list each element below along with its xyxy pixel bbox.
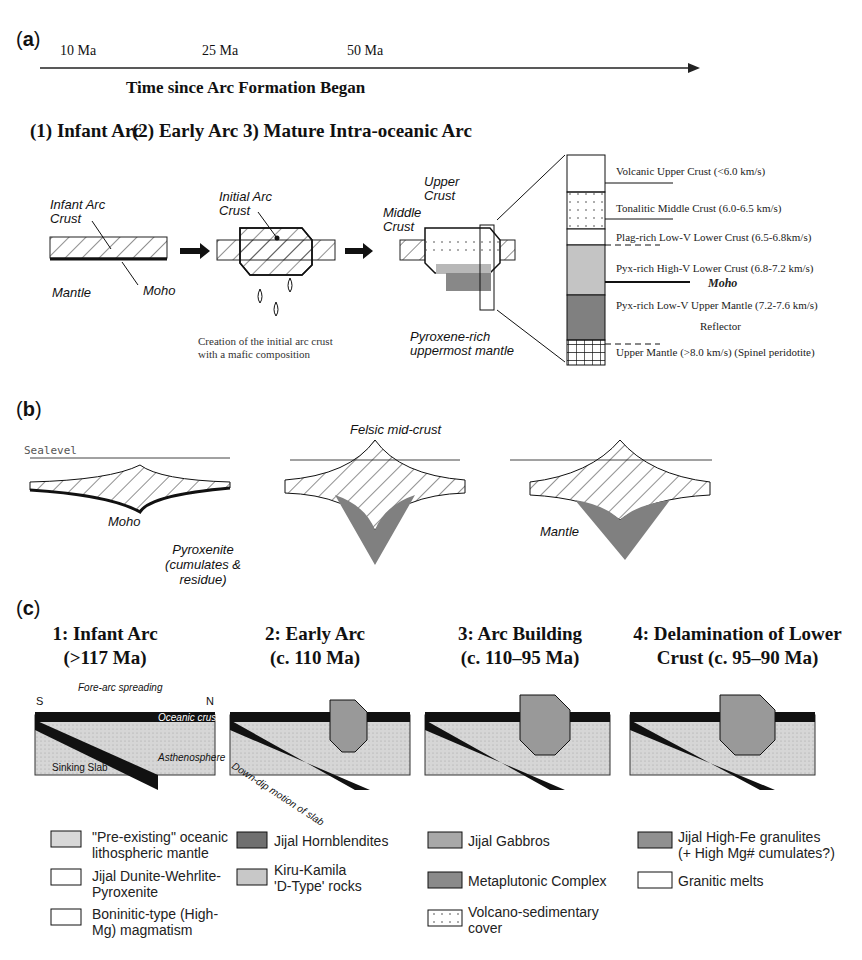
legend-7-l2: cover (468, 920, 599, 936)
legend-0-l2: lithospheric mantle (92, 845, 228, 861)
c-stage-4-title: 4: Delamination of Lower Crust (c. 95–90… (615, 622, 860, 670)
legend-8-l1: Jijal High-Fe granulites (678, 829, 835, 845)
legend-boninitic: Boninitic-type (High-Mg) magmatism (92, 906, 218, 938)
c-stage-2-line1: 2: Early Arc (220, 622, 410, 646)
tick-50ma: 50 Ma (347, 43, 383, 59)
mantle-label-b: Mantle (540, 524, 579, 539)
upper-crust-label: Upper Crust (424, 175, 474, 203)
pyroxene-line-1: Pyroxene-rich (410, 330, 514, 344)
c-stage-1-line2: (>117 Ma) (10, 646, 200, 670)
stage-1-title: (1) Infant Arc (30, 120, 142, 142)
legend-kiru-kamila: Kiru-Kamila'D-Type' rocks (274, 862, 362, 894)
pyroxene-rich-label: Pyroxene-rich uppermost mantle (410, 330, 514, 358)
legend-volcano-sedimentary: Volcano-sedimentarycover (468, 904, 599, 936)
legend-7-l1: Volcano-sedimentary (468, 904, 599, 920)
sinking-slab-label: Sinking Slab (52, 762, 108, 773)
panel-b-label: (b) (16, 398, 42, 421)
felsic-mid-crust-label: Felsic mid-crust (350, 422, 441, 437)
timeline-arrow (40, 63, 700, 73)
column-label-moho: Moho (708, 276, 737, 291)
c-stage-4-line2: Crust (c. 95–90 Ma) (615, 646, 860, 670)
c-stage-1-title: 1: Infant Arc (>117 Ma) (10, 622, 200, 670)
legend-hornblendites: Jijal Hornblendites (274, 833, 388, 849)
early-arc-section (217, 212, 335, 316)
legend-4-l2: 'D-Type' rocks (274, 878, 362, 894)
fore-arc-label: Fore-arc spreading (78, 682, 162, 693)
column-label-5: Pyx-rich Low-V Upper Mantle (7.2-7.6 km/… (616, 299, 818, 311)
diagram-graphics (0, 0, 862, 960)
c-stage-3-title: 3: Arc Building (c. 110–95 Ma) (425, 622, 615, 670)
pyroxenite-line-2: (cumulates & residue) (148, 557, 258, 587)
sealevel-label: Sealevel (24, 444, 77, 457)
moho-label-a: Moho (143, 283, 176, 298)
caption-line-1: Creation of the initial arc crust (198, 335, 333, 348)
velocity-column (567, 155, 690, 365)
tick-10ma: 10 Ma (60, 43, 96, 59)
mantle-label-a: Mantle (52, 285, 91, 300)
column-label-2: Plag-rich Low-V Lower Crust (6.5-6.8km/s… (616, 231, 811, 243)
moho-label-b: Moho (108, 514, 141, 529)
c-stage-1-line1: 1: Infant Arc (10, 622, 200, 646)
legend-8-l2: (+ High Mg# cumulates?) (678, 845, 835, 861)
pyroxenite-line-1: Pyroxenite (148, 542, 258, 557)
asthenosphere-label: Asthenosphere (158, 752, 225, 763)
legend-2-l2: Mg) magmatism (92, 922, 218, 938)
infant-arc-crust-label: Infant Arc Crust (50, 198, 120, 226)
arrow-1 (180, 243, 210, 259)
c-stage-2-title: 2: Early Arc (c. 110 Ma) (220, 622, 410, 670)
north-label: N (206, 695, 214, 707)
stage-3-title: 3) Mature Intra-oceanic Arc (243, 120, 472, 142)
pyroxene-line-2: uppermost mantle (410, 344, 514, 358)
panel-c-stage-4 (630, 695, 815, 790)
column-label-0: Volcanic Upper Crust (<6.0 km/s) (616, 165, 765, 177)
column-label-7: Upper Mantle (>8.0 km/s) (Spinel peridot… (616, 346, 815, 358)
legend-4-l1: Kiru-Kamila (274, 862, 362, 878)
legend-2-l1: Boninitic-type (High- (92, 906, 218, 922)
legend-1-l2: Pyroxenite (92, 884, 221, 900)
pyroxenite-label: Pyroxenite (cumulates & residue) (148, 542, 258, 587)
south-label: S (36, 695, 43, 707)
timeline-title: Time since Arc Formation Began (126, 78, 365, 98)
legend-high-fe: Jijal High-Fe granulites(+ High Mg# cumu… (678, 829, 835, 861)
arrow-2 (345, 243, 373, 259)
c-stage-3-line2: (c. 110–95 Ma) (425, 646, 615, 670)
legend-0-l1: "Pre-existing" oceanic (92, 829, 228, 845)
panel-b-sections (30, 440, 712, 565)
column-label-reflector: Reflector (700, 320, 741, 332)
tick-25ma: 25 Ma (202, 43, 238, 59)
legend-gabbros: Jijal Gabbros (468, 833, 550, 849)
column-label-1: Tonalitic Middle Crust (6.0-6.5 km/s) (616, 202, 781, 214)
c-stage-2-line2: (c. 110 Ma) (220, 646, 410, 670)
oceanic-crust-label: Oceanic crust (158, 712, 219, 723)
caption-line-2: with a mafic composition (198, 348, 333, 361)
legend-1-l1: Jijal Dunite-Wehrlite- (92, 868, 221, 884)
initial-arc-crust-label: Initial Arc Crust (219, 190, 279, 218)
middle-crust-label: Middle Crust (383, 206, 433, 234)
c-stage-3-line1: 3: Arc Building (425, 622, 615, 646)
early-arc-caption: Creation of the initial arc crust with a… (198, 335, 333, 361)
legend-dunite: Jijal Dunite-Wehrlite-Pyroxenite (92, 868, 221, 900)
legend-metaplutonic: Metaplutonic Complex (468, 873, 607, 889)
column-label-3: Pyx-rich High-V Lower Crust (6.8-7.2 km/… (616, 262, 813, 274)
panel-c-stage-3 (425, 695, 610, 790)
infant-arc-section (50, 221, 167, 285)
c-stage-4-line1: 4: Delamination of Lower (615, 622, 860, 646)
stage-2-title: (2) Early Arc (132, 120, 238, 142)
panel-c-stage-1 (35, 712, 215, 790)
panel-a-label: (a) (16, 28, 40, 51)
panel-c-label: (c) (16, 597, 40, 620)
legend-preexisting: "Pre-existing" oceaniclithospheric mantl… (92, 829, 228, 861)
legend-granitic: Granitic melts (678, 873, 764, 889)
